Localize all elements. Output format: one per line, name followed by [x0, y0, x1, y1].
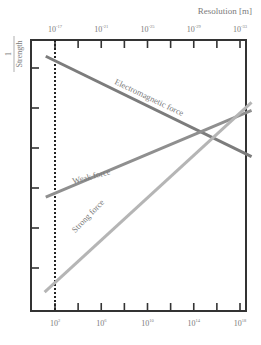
bottom-axis-tick-label: 1014 — [188, 318, 201, 328]
bottom-axis-tick-label: 1018 — [234, 318, 247, 328]
bottom-axis-tick-label: 1010 — [141, 318, 154, 328]
chart-canvas: Resolution [m] 1 Strength 10210610101014… — [0, 0, 261, 345]
top-axis-tick-label: 10-29 — [187, 24, 202, 34]
top-axis-tick-label: 10-21 — [94, 24, 108, 34]
plot-area: 10210610101014101810-1710-2110-2510-2910… — [31, 24, 252, 328]
top-axis-title: Resolution [m] — [198, 6, 252, 16]
strong-force-label: Strong force — [70, 197, 107, 235]
top-axis-tick-label: 10-17 — [48, 24, 63, 34]
bottom-axis-tick-label: 106 — [96, 318, 107, 328]
strong-force-line — [45, 102, 252, 292]
electromagnetic-force-line — [46, 56, 252, 156]
electromagnetic-force-label: Electromagnetic force — [113, 77, 185, 119]
force-strength-chart: Resolution [m] 1 Strength 10210610101014… — [0, 0, 261, 345]
top-axis-tick-label: 10-25 — [141, 24, 156, 34]
plot-frame — [31, 40, 246, 311]
y-axis-label: 1 Strength — [4, 36, 24, 72]
y-axis-label-numerator: 1 — [4, 52, 13, 56]
y-axis-label-denominator: Strength — [15, 40, 24, 67]
bottom-axis-tick-label: 102 — [50, 318, 60, 328]
weak-force-label: Weak force — [71, 166, 111, 186]
top-axis-tick-label: 10-33 — [233, 24, 248, 34]
